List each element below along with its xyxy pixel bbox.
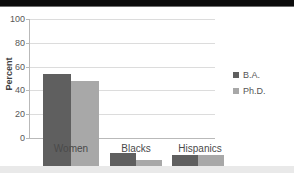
x-axis-label-hispanics: Hispanics: [168, 143, 232, 154]
bar-hispanics-ba[interactable]: [172, 155, 198, 166]
y-tick-label-20: 20: [0, 109, 25, 119]
y-tick-label-60: 60: [0, 62, 25, 72]
legend-item-ba[interactable]: B.A.: [233, 67, 291, 83]
legend-swatch-icon-ba: [233, 72, 239, 78]
bar-hispanics-phd[interactable]: [198, 155, 224, 166]
x-axis-label-blacks: Blacks: [106, 143, 166, 154]
x-axis-label-women: Women: [41, 143, 101, 154]
legend-label-ba: B.A.: [243, 70, 260, 80]
bar-blacks-ba[interactable]: [110, 153, 136, 166]
legend-swatch-icon-phd: [233, 88, 239, 94]
y-tick-label-80: 80: [0, 38, 25, 48]
chart-legend: B.A. Ph.D.: [233, 67, 291, 99]
y-tick-label-100: 100: [0, 14, 25, 24]
bar-chart: Percent 100 80 60 40 20 0: [0, 7, 294, 166]
legend-label-phd: Ph.D.: [243, 86, 266, 96]
y-tick-label-40: 40: [0, 85, 25, 95]
chart-screenshot: Percent 100 80 60 40 20 0: [0, 0, 294, 173]
y-tick-label-0: 0: [0, 133, 25, 143]
bottom-gray-band: [0, 166, 294, 173]
legend-item-phd[interactable]: Ph.D.: [233, 83, 291, 99]
